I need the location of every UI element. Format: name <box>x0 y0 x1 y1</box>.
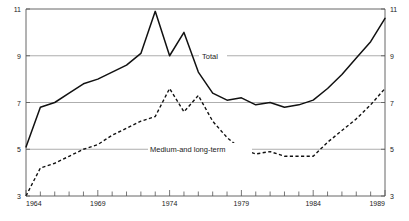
medium-long-term-label: Medium-and long-term <box>150 145 225 154</box>
x-label-1969: 1969 <box>90 200 106 207</box>
y-label-left-9: 9 <box>17 53 21 60</box>
y-label-left-7: 7 <box>17 100 21 107</box>
line-chart: 11 9 7 5 3 11 9 7 5 3 1964 1969 1974 197… <box>0 0 409 221</box>
y-label-right-7: 7 <box>390 100 394 107</box>
y-label-left-3: 3 <box>17 193 21 200</box>
y-axis-labels-right: 11 9 7 5 3 <box>390 6 397 200</box>
total-label: Total <box>202 52 218 61</box>
x-label-1974: 1974 <box>162 200 178 207</box>
y-label-right-11: 11 <box>390 6 397 13</box>
x-label-1979: 1979 <box>234 200 250 207</box>
y-label-right-5: 5 <box>390 146 394 153</box>
y-label-right-9: 9 <box>390 53 394 60</box>
x-label-1964: 1964 <box>26 200 42 207</box>
total-annotation: Total <box>199 50 227 62</box>
medium-long-term-annotation: Medium-and long-term <box>148 143 252 155</box>
y-label-right-3: 3 <box>390 193 394 200</box>
chart-container: 11 9 7 5 3 11 9 7 5 3 1964 1969 1974 197… <box>0 0 409 221</box>
y-label-left-11: 11 <box>14 6 21 13</box>
x-label-1984: 1984 <box>305 200 321 207</box>
x-label-1989: 1989 <box>369 200 385 207</box>
y-label-left-5: 5 <box>17 146 21 153</box>
x-axis-labels: 1964 1969 1974 1979 1984 1989 <box>26 200 385 207</box>
y-axis-labels-left: 11 9 7 5 3 <box>14 6 21 200</box>
